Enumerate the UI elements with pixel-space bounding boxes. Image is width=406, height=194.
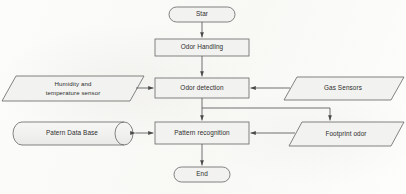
flowchart-shapes-layer bbox=[0, 0, 406, 194]
node-shape-start bbox=[169, 7, 235, 22]
node-shape-footprint-odor bbox=[289, 122, 404, 146]
node-shape-end bbox=[174, 167, 230, 182]
node-shape-odor-handling bbox=[155, 39, 249, 56]
node-shape-pattern-recognition bbox=[155, 122, 249, 144]
node-shape-odor-detection bbox=[155, 78, 249, 98]
flowchart-canvas: Star Odor Handling Odor detection Patter… bbox=[0, 0, 406, 194]
node-shape-humidity-sensor bbox=[2, 76, 144, 101]
node-shape-gas-sensors bbox=[284, 77, 404, 100]
connector-odor-detection-to-footprint-odor bbox=[202, 108, 330, 120]
